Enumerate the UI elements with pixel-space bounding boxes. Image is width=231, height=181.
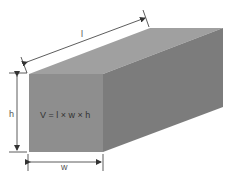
- width-label: w: [60, 162, 68, 172]
- length-label: l: [81, 29, 83, 39]
- height-label: h: [9, 109, 14, 119]
- prism-diagram: l h w V = l × w × h: [0, 0, 231, 181]
- volume-formula: V = l × w × h: [40, 110, 90, 120]
